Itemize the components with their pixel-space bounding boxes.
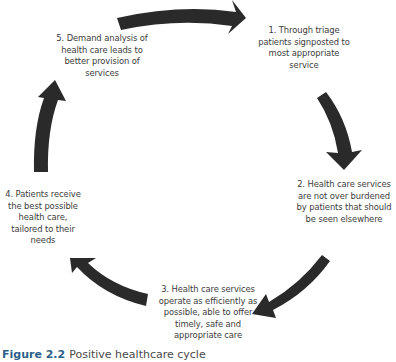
figure-label: Figure 2.2	[2, 348, 65, 361]
arrow-4-to-5-icon	[34, 80, 66, 172]
cycle-step-2: 2. Health care services are not over bur…	[296, 179, 392, 225]
arrow-5-to-1-icon	[117, 0, 246, 34]
arrow-3-to-4-icon	[70, 258, 148, 306]
arrow-2-to-3-icon	[252, 255, 330, 318]
figure-title: Positive healthcare cycle	[69, 348, 206, 361]
cycle-step-3: 3. Health care services operate as effic…	[156, 284, 260, 342]
positive-healthcare-cycle-diagram: 1. Through triage patients signposted to…	[0, 0, 396, 362]
arrow-1-to-2-icon	[317, 92, 362, 170]
cycle-step-1: 1. Through triage patients signposted to…	[254, 25, 354, 71]
figure-caption: Figure 2.2Positive healthcare cycle	[2, 348, 206, 361]
cycle-step-4: 4. Patients receive the best possible he…	[2, 189, 84, 247]
cycle-step-5: 5. Demand analysis of health care leads …	[52, 33, 152, 79]
